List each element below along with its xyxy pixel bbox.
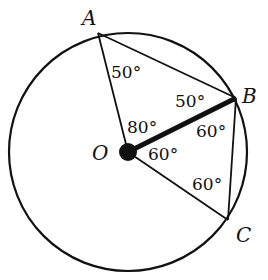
label-B: B xyxy=(241,84,257,108)
center-point xyxy=(119,143,137,161)
label-A: A xyxy=(80,6,96,30)
label-C: C xyxy=(236,223,251,247)
label-O: O xyxy=(92,141,108,165)
angle-OBC: 60° xyxy=(196,121,226,141)
circle-diagram: A B C O 50° 50° 80° 60° 60° 60° xyxy=(0,0,268,280)
angle-AOB: 80° xyxy=(127,117,157,137)
segment-BC xyxy=(228,98,236,220)
angle-BOC: 60° xyxy=(148,144,178,164)
angle-OBA: 50° xyxy=(175,91,205,111)
angle-OAB: 50° xyxy=(111,62,141,82)
segment-OA xyxy=(98,33,128,152)
angle-OCB: 60° xyxy=(192,174,222,194)
